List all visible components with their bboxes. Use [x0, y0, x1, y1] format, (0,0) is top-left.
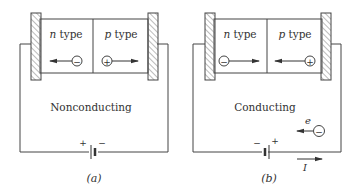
- current-label: I: [302, 162, 308, 173]
- electron-sign: −: [73, 57, 81, 67]
- panel-b: n type p type − + Conducting − + e − I (…: [193, 13, 341, 185]
- caption-b: (b): [261, 172, 277, 185]
- left-contact: [205, 13, 215, 80]
- n-type-label: n type: [49, 28, 82, 40]
- right-contact: [321, 13, 331, 80]
- battery-minus-sign: −: [253, 138, 261, 148]
- battery-plus-sign: +: [271, 136, 279, 146]
- panel-a: n type p type − + Nonconducting + − (a): [20, 13, 168, 185]
- pn-junction-diagram: n type p type − + Nonconducting + − (a) …: [0, 0, 355, 192]
- electron-flow-sign: −: [315, 127, 323, 137]
- electron-sign: −: [220, 57, 228, 67]
- battery-minus-sign: −: [98, 138, 106, 148]
- right-contact: [148, 13, 158, 80]
- left-contact: [31, 13, 41, 80]
- state-label-nonconducting: Nonconducting: [50, 101, 132, 113]
- caption-a: (a): [86, 172, 101, 185]
- electron-label: e: [305, 115, 311, 126]
- battery-icon: [91, 145, 95, 159]
- hole-sign: +: [103, 57, 111, 67]
- p-type-label: p type: [104, 28, 137, 40]
- n-type-label: n type: [223, 28, 256, 40]
- battery-plus-sign: +: [79, 138, 87, 148]
- hole-sign: +: [306, 57, 314, 67]
- p-type-label: p type: [278, 28, 311, 40]
- state-label-conducting: Conducting: [234, 101, 296, 113]
